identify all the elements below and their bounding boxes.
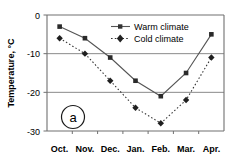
y-tick-label-0: 0 (35, 11, 40, 21)
data-point-square-icon (133, 78, 138, 83)
data-point-square-icon (57, 24, 62, 29)
data-point-square-icon (83, 36, 88, 41)
x-tick-label-oct: Oct. (51, 144, 69, 154)
x-tick-label-feb: Feb. (152, 144, 171, 154)
y-tick-label-minus10: -10 (27, 49, 40, 59)
x-tick-label-dec: Dec. (101, 144, 120, 154)
data-point-square-icon (108, 55, 113, 60)
legend-label-cold: Cold climate (134, 34, 184, 44)
x-tick-label-apr: Apr. (203, 144, 221, 154)
x-tick-label-jan: Jan. (126, 144, 144, 154)
y-tick-label-minus20: -20 (27, 88, 40, 98)
data-point-square-icon (184, 71, 189, 76)
x-tick-label-nov: Nov. (75, 144, 94, 154)
panel-label-text: a (69, 110, 77, 125)
temperature-line-chart: 0 -10 -20 -30 Temperature, °C Oct. Nov. … (0, 0, 242, 164)
chart-figure: 0 -10 -20 -30 Temperature, °C Oct. Nov. … (0, 0, 242, 164)
data-point-square-icon (209, 32, 214, 37)
x-tick-label-mar: Mar. (177, 144, 195, 154)
y-axis-title: Temperature, °C (6, 38, 16, 107)
data-point-square-icon (158, 94, 163, 99)
legend-label-warm: Warm climate (134, 22, 189, 32)
y-tick-label-minus30: -30 (27, 127, 40, 137)
legend-marker-square-icon (118, 24, 122, 28)
